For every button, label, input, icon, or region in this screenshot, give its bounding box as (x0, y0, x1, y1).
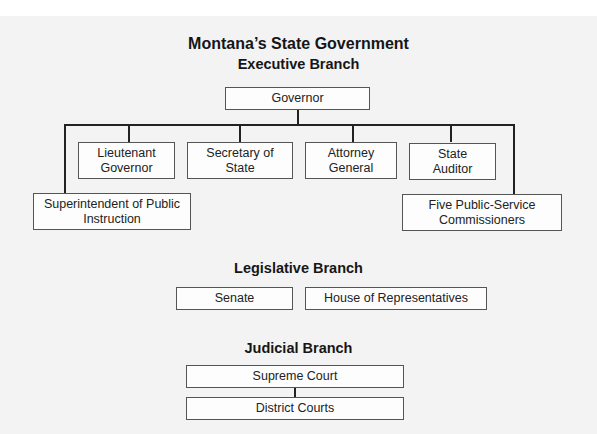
executive-branch-heading: Executive Branch (0, 56, 597, 72)
governor-connector (297, 110, 299, 125)
supreme-court-box: Supreme Court (186, 365, 404, 388)
commissioners-label: Five Public-Service Commissioners (422, 198, 542, 228)
governor-label: Governor (271, 91, 323, 106)
executive-bus-line (64, 124, 514, 126)
legislative-branch-heading: Legislative Branch (0, 260, 597, 276)
lieutenant-governor-label: Lieutenant Governor (92, 146, 162, 176)
judicial-branch-heading: Judicial Branch (0, 340, 597, 356)
state-auditor-label: State Auditor (428, 147, 478, 177)
lieutenant-governor-box: Lieutenant Governor (78, 142, 175, 179)
secretary-connector (239, 124, 241, 142)
commissioners-box: Five Public-Service Commissioners (402, 194, 562, 231)
auditor-connector (450, 124, 452, 142)
state-auditor-box: State Auditor (409, 143, 496, 180)
lt-governor-connector (128, 124, 130, 142)
diagram-title: Montana’s State Government (0, 35, 597, 53)
district-courts-box: District Courts (186, 397, 404, 420)
house-label: House of Representatives (324, 291, 468, 306)
attorney-connector (352, 124, 354, 142)
courts-connector (294, 388, 296, 397)
senate-box: Senate (176, 287, 293, 310)
house-box: House of Representatives (305, 287, 487, 310)
secretary-of-state-box: Secretary of State (187, 142, 293, 179)
superintendent-connector (64, 124, 66, 193)
supreme-court-label: Supreme Court (253, 369, 338, 384)
senate-label: Senate (215, 291, 255, 306)
district-courts-label: District Courts (256, 401, 334, 416)
secretary-of-state-label: Secretary of State (195, 146, 285, 176)
governor-box: Governor (225, 87, 370, 110)
superintendent-label: Superintendent of Public Instruction (37, 197, 187, 227)
attorney-general-label: Attorney General (321, 146, 381, 176)
commissioners-connector (513, 124, 515, 194)
superintendent-box: Superintendent of Public Instruction (33, 193, 191, 230)
attorney-general-box: Attorney General (305, 142, 397, 179)
